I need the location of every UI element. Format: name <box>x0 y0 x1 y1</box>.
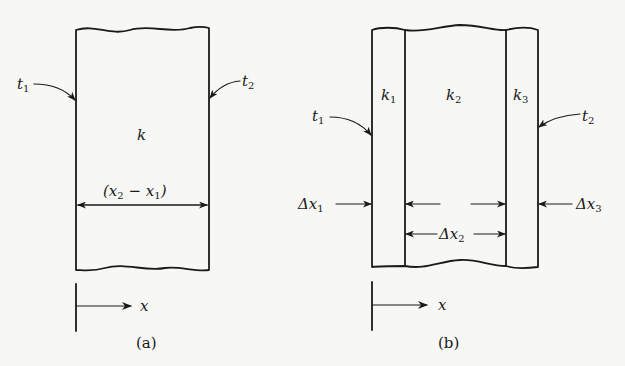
t2-label-b: t2 <box>582 107 594 126</box>
caption-a: (a) <box>136 334 157 352</box>
t1-pointer-a <box>34 84 75 100</box>
t1-label-a: t1 <box>17 75 29 94</box>
conductivity-label-k: k <box>137 126 146 144</box>
figure-b-composite-wall: k1 k2 k3 t1 t2 Δx1 Δx3 Δx2 <box>297 25 602 352</box>
layer-label-k1: k1 <box>381 86 396 105</box>
thickness-label-a: (x2 − x1) <box>103 182 167 201</box>
t2-pointer-a <box>210 81 240 98</box>
wall-a-outline <box>76 27 209 271</box>
caption-b: (b) <box>438 334 459 352</box>
figure-canvas: t1 t2 k (x2 − x1) x (a) <box>0 0 625 366</box>
t2-pointer-b <box>539 114 580 127</box>
t2-label-a: t2 <box>242 72 254 91</box>
x-axis-label-b: x <box>438 296 447 314</box>
dx1-label: Δx1 <box>297 195 324 214</box>
diagram-svg: t1 t2 k (x2 − x1) x (a) <box>0 0 625 366</box>
dx2-label: Δx2 <box>438 225 465 244</box>
t1-label-b: t1 <box>312 107 324 126</box>
layer-label-k2: k2 <box>446 86 461 105</box>
x-axis-label-a: x <box>140 297 149 315</box>
figure-a-single-wall: t1 t2 k (x2 − x1) x (a) <box>17 27 254 352</box>
t1-pointer-b <box>330 117 371 135</box>
layer-label-k3: k3 <box>513 86 528 105</box>
dx3-label: Δx3 <box>575 195 602 214</box>
